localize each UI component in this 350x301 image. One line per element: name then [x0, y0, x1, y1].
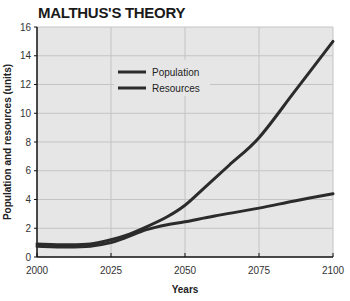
y-tick-label: 8: [25, 137, 31, 148]
x-tick-label: 2050: [174, 265, 197, 276]
y-axis-label: Population and resources (units): [2, 64, 13, 220]
y-tick-label: 10: [20, 108, 32, 119]
y-tick-label: 14: [20, 50, 32, 61]
y-tick-label: 4: [25, 194, 31, 205]
y-tick-label: 0: [25, 252, 31, 263]
y-tick-label: 6: [25, 165, 31, 176]
x-tick-label: 2025: [100, 265, 123, 276]
x-axis-label: Years: [172, 284, 199, 295]
x-tick-label: 2000: [26, 265, 49, 276]
x-tick-label: 2075: [248, 265, 271, 276]
y-ticks: 0246810121416: [20, 22, 37, 263]
x-tick-label: 2100: [322, 265, 345, 276]
y-tick-label: 16: [20, 22, 32, 33]
chart-title: MALTHUS'S THEORY: [38, 4, 185, 21]
legend-label-resources: Resources: [152, 83, 200, 94]
y-tick-label: 2: [25, 223, 31, 234]
y-tick-label: 12: [20, 79, 32, 90]
legend-label-population: Population: [152, 67, 199, 78]
chart: MALTHUS'S THEORY 0246810121416 200020252…: [0, 0, 350, 301]
legend: PopulationResources: [114, 60, 210, 96]
